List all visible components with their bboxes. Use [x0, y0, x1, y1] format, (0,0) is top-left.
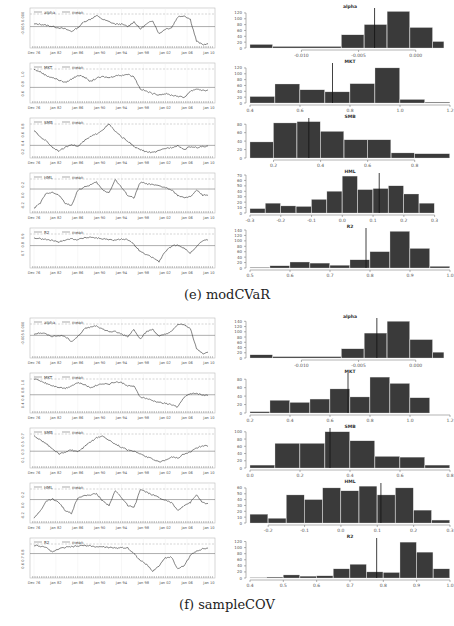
y-tick-label: 20: [237, 40, 243, 45]
y-tick-label: -0.005: [21, 333, 25, 345]
series-line-r2: [34, 237, 208, 262]
y-tick-label: 0.000: [21, 11, 25, 22]
caption-samplecov: (f) sampleCOV: [0, 597, 454, 612]
x-tick-label: Jan 82: [49, 161, 61, 165]
x-tick-label: Jan 90: [93, 361, 106, 365]
histogram-bar: [433, 42, 444, 48]
y-tick-label: 30: [237, 194, 243, 199]
legend-label: mean: [72, 375, 84, 380]
x-tick-label: Jan 82: [49, 416, 61, 420]
y-tick-label: 40: [237, 451, 243, 456]
x-tick-label: Jan 98: [137, 526, 150, 530]
x-tick-label: Jan 86: [71, 416, 84, 420]
x-tick-label: Jan 94: [115, 416, 128, 420]
y-tick-label: 80: [237, 437, 243, 442]
x-tick-label: Jan 06: [180, 581, 193, 585]
x-tick-label: Dec 76: [28, 161, 41, 165]
legend-label: alpha: [44, 10, 56, 15]
x-tick-label: Jan 82: [49, 581, 61, 585]
x-tick-label: Jan 02: [159, 471, 171, 475]
y-tick-label: 0: [239, 466, 242, 471]
histogram-bar: [327, 191, 342, 213]
y-tick-label: 40: [237, 89, 243, 94]
x-tick-label: Dec 76: [28, 51, 41, 55]
histogram-bar: [333, 569, 349, 578]
y-tick-label: 80: [237, 377, 243, 382]
y-tick-label: 20: [237, 402, 243, 407]
x-tick-label: Jan 10: [202, 416, 215, 420]
x-tick-label: Jan 06: [180, 416, 193, 420]
histogram-bar: [364, 25, 386, 48]
x-tick-label: 0.8: [380, 583, 387, 588]
x-tick-label: Dec 76: [28, 361, 41, 365]
line-panel-mkt: Dec 76Jan 82Jan 86Jan 90Jan 94Jan 98Jan …: [21, 373, 215, 420]
y-tick-label: 80: [237, 244, 243, 249]
y-tick-label: 20: [237, 350, 243, 355]
y-tick-label: 0.5: [21, 441, 25, 447]
histogram-bar: [432, 520, 450, 523]
histogram-bar: [415, 154, 450, 158]
legend-label: R2: [44, 540, 50, 545]
y-tick-label: 0.8: [21, 123, 25, 129]
x-tick-label: Jan 82: [49, 216, 61, 220]
x-tick-label: Jan 02: [159, 416, 171, 420]
series-line-alpha: [34, 324, 208, 354]
y-tick-label: 60: [237, 557, 243, 562]
x-tick-label: 0.0: [339, 218, 346, 223]
histogram-bar: [350, 397, 370, 413]
histogram-title: SMB: [344, 424, 356, 429]
histogram-bar: [342, 176, 357, 213]
line-panel-smb: Dec 76Jan 82Jan 86Jan 90Jan 94Jan 98Jan …: [21, 428, 215, 475]
y-tick-label: 100: [234, 16, 242, 21]
x-tick-label: 0.4: [246, 108, 253, 113]
histogram-bar: [250, 209, 265, 213]
histogram-bar: [323, 488, 341, 523]
x-tick-label: Jan 98: [137, 106, 150, 110]
histogram-panel-hml: HML010203040506070-0.3-0.2-0.10.00.10.20…: [237, 169, 438, 223]
histogram-bar: [387, 321, 409, 358]
y-tick-label: 40: [237, 189, 243, 194]
x-tick-label: Jan 82: [49, 361, 61, 365]
x-tick-label: 1.0: [446, 273, 453, 278]
histogram-bar: [273, 47, 341, 48]
x-tick-label: Jan 94: [115, 51, 128, 55]
series-line-hml: [34, 490, 208, 519]
y-tick-label: 40: [237, 563, 243, 568]
histogram-title: alpha: [343, 314, 357, 319]
x-tick-label: Jan 90: [93, 106, 106, 110]
x-tick-label: Jan 10: [202, 216, 215, 220]
x-tick-label: Jan 02: [159, 106, 171, 110]
legend-label: mean: [72, 10, 84, 15]
x-tick-label: -0.1: [300, 528, 309, 533]
series-line-hml: [34, 180, 208, 209]
y-tick-label: 0.3: [21, 449, 25, 455]
x-tick-label: Jan 94: [115, 471, 128, 475]
histogram-title: HML: [344, 479, 355, 484]
y-tick-label: 0.7: [21, 556, 25, 562]
legend-label: mean: [72, 540, 84, 545]
y-tick-label: 20: [237, 200, 243, 205]
x-tick-label: 0.9: [413, 583, 420, 588]
series-line-mkt: [34, 70, 208, 98]
y-tick-label: 100: [234, 545, 242, 550]
histogram-bar: [410, 248, 430, 268]
histogram-bar: [390, 383, 410, 413]
x-tick-label: Jan 94: [115, 216, 128, 220]
x-tick-label: 0.6: [286, 273, 293, 278]
x-tick-label: Jan 94: [115, 106, 128, 110]
y-tick-label: 50: [237, 183, 243, 188]
x-tick-label: Jan 90: [93, 161, 106, 165]
x-tick-label: Dec 76: [28, 526, 41, 530]
x-tick-label: -0.010: [294, 363, 309, 368]
y-tick-label: -0.2: [21, 512, 25, 519]
x-tick-label: 0.4: [317, 163, 324, 168]
x-tick-label: 0.6: [326, 418, 333, 423]
legend-label: HML: [44, 485, 53, 490]
y-tick-label: 100: [234, 429, 242, 434]
x-tick-label: Jan 82: [49, 271, 61, 275]
y-tick-label: 70: [237, 173, 243, 178]
histogram-bar: [419, 203, 434, 213]
x-tick-label: Jan 86: [71, 216, 84, 220]
x-tick-label: 0.2: [246, 418, 253, 423]
y-tick-label: 40: [237, 394, 243, 399]
